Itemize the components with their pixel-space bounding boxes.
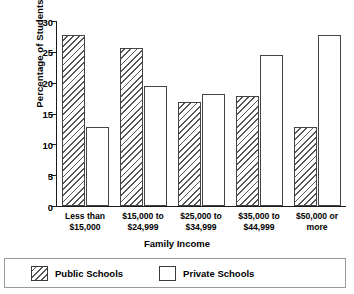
- legend-entry-public-schools: Public Schools: [31, 266, 123, 281]
- bar-private-0: [86, 127, 109, 206]
- bar-group: [230, 21, 288, 206]
- y-tick-label: 0: [48, 201, 53, 212]
- y-tick-label: 5: [48, 170, 53, 181]
- x-category-label-line: $15,000: [56, 222, 114, 233]
- plot-area: 051015202530 Less than$15,000$15,000 to$…: [56, 21, 346, 206]
- y-tick-label: 10: [42, 139, 53, 150]
- bar-public-0: [62, 35, 85, 206]
- x-category-label: $15,000 to$24,999: [114, 211, 172, 232]
- x-category-label-line: $35,000 to: [230, 211, 288, 222]
- x-category-label-line: $24,999: [114, 222, 172, 233]
- x-category-label-line: Less than: [56, 211, 114, 222]
- x-category-label-line: $25,000 to: [172, 211, 230, 222]
- bar-chart-figure: Percentage of Students 051015202530 Less…: [0, 0, 354, 294]
- bar-group: [56, 21, 114, 206]
- bar-private-1: [144, 86, 167, 206]
- x-category-label-line: $34,999: [172, 222, 230, 233]
- bar-public-3: [236, 96, 259, 206]
- bar-private-2: [202, 94, 225, 206]
- x-axis-line: [56, 206, 346, 207]
- y-tick-label: 15: [42, 109, 53, 120]
- bar-group: [288, 21, 346, 206]
- bar-group: [114, 21, 172, 206]
- y-tick-label: 20: [42, 78, 53, 89]
- y-tick-label: 30: [42, 16, 53, 27]
- x-category-label-line: $44,999: [230, 222, 288, 233]
- bar-public-4: [294, 127, 317, 206]
- x-category-label: $25,000 to$34,999: [172, 211, 230, 232]
- x-category-label: $50,000 ormore: [288, 211, 346, 232]
- legend-swatch-public-schools: [31, 266, 48, 281]
- x-category-label: Less than$15,000: [56, 211, 114, 232]
- x-category-label-line: $50,000 or: [288, 211, 346, 222]
- x-axis-title: Family Income: [0, 238, 354, 249]
- bar-private-4: [318, 35, 341, 206]
- x-category-label: $35,000 to$44,999: [230, 211, 288, 232]
- legend-entry-private-schools: Private Schools: [159, 266, 254, 281]
- legend-swatch-private-schools: [159, 266, 176, 281]
- bar-group: [172, 21, 230, 206]
- bar-public-1: [120, 48, 143, 206]
- chart-legend: Public Schools Private Schools: [4, 258, 346, 288]
- y-tick-label: 25: [42, 47, 53, 58]
- legend-label-public-schools: Public Schools: [55, 268, 123, 279]
- bar-private-3: [260, 55, 283, 206]
- y-tick-0: 0: [56, 206, 61, 207]
- bar-public-2: [178, 102, 201, 206]
- x-category-label-line: $15,000 to: [114, 211, 172, 222]
- legend-label-private-schools: Private Schools: [183, 268, 254, 279]
- x-category-label-line: more: [288, 222, 346, 233]
